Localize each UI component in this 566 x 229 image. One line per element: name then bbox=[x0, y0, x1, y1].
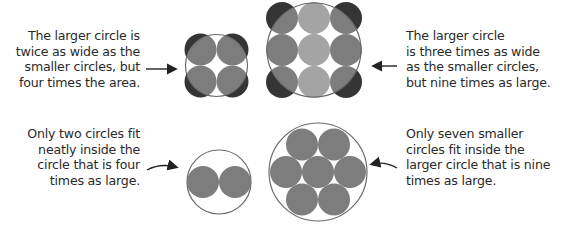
figure-two-by-two bbox=[180, 30, 260, 110]
figure-two-packed bbox=[187, 150, 251, 214]
figure-three-by-three bbox=[260, 0, 370, 105]
arrow-icon bbox=[147, 166, 176, 170]
figure-seven-packed bbox=[269, 123, 367, 221]
circles-diagram bbox=[0, 0, 566, 229]
arrow-icon bbox=[372, 163, 397, 168]
